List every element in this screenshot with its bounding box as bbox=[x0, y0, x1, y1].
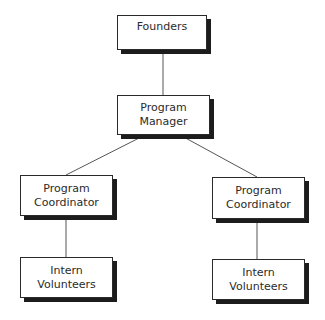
node-label: Program bbox=[43, 182, 89, 196]
node-label: Volunteers bbox=[37, 278, 96, 292]
node-interns-left: Intern Volunteers bbox=[20, 257, 113, 298]
node-label: Manager bbox=[139, 115, 187, 129]
node-interns-right: Intern Volunteers bbox=[212, 259, 305, 300]
edge-manager-coordinator-left bbox=[66, 135, 145, 175]
node-coordinator-left: Program Coordinator bbox=[20, 175, 113, 216]
node-label: Coordinator bbox=[34, 196, 99, 210]
node-label: Intern bbox=[242, 266, 275, 280]
node-founders: Founders bbox=[117, 15, 207, 50]
node-label: Coordinator bbox=[226, 198, 291, 212]
node-label: Volunteers bbox=[229, 280, 288, 294]
node-label: Founders bbox=[137, 20, 188, 34]
node-label: Program bbox=[140, 101, 186, 115]
node-label: Intern bbox=[50, 264, 83, 278]
node-coordinator-right: Program Coordinator bbox=[212, 177, 305, 219]
node-label: Program bbox=[235, 184, 281, 198]
edge-manager-coordinator-right bbox=[180, 135, 257, 177]
node-program-manager: Program Manager bbox=[117, 95, 210, 135]
